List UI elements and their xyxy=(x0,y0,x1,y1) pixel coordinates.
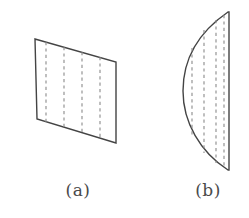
panel-a-outline xyxy=(35,39,116,143)
panel-b-dashed-rulings xyxy=(192,15,224,168)
panel-b-caption: (b) xyxy=(168,180,248,200)
panel-b-group xyxy=(183,12,229,170)
panel-a-caption: (a) xyxy=(38,180,118,200)
panel-b-outline xyxy=(183,12,229,170)
panel-a-group xyxy=(35,39,116,143)
figure-page: (a) (b) xyxy=(0,0,249,218)
